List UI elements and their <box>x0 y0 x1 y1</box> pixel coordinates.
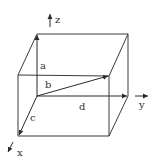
z-axis-label: z <box>55 14 60 25</box>
vector-a-label: a <box>40 60 46 71</box>
y-axis-label: y <box>138 99 145 110</box>
vector-c-label: c <box>30 112 36 123</box>
axis-indicators <box>8 14 148 152</box>
x-axis-label: x <box>17 147 23 158</box>
box-diagram: z y x a b c d <box>0 0 156 164</box>
x-axis-arrow <box>8 142 13 152</box>
vector-b-label: b <box>45 79 51 90</box>
vector-d-label: d <box>79 101 86 112</box>
